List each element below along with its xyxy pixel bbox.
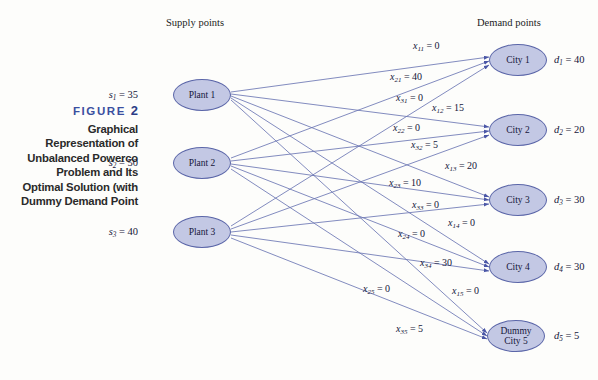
edge-value-x32: 5 [433,139,438,150]
demand-value-2: d2 = 20 [554,124,585,135]
demand-amount-2: 20 [574,124,585,135]
demand-amount-3: 30 [574,194,585,205]
supply-sub-2: 2 [113,162,117,170]
edge-label-x32: x32 = 5 [411,139,438,150]
edge-sub-x25: 25 [367,288,374,296]
edge-value-x25: 0 [385,283,390,294]
edge-sub-x35: 35 [400,328,407,336]
edge-eq-x11: = [424,40,435,51]
edge-sub-x33: 33 [416,204,423,212]
edge-eq-x33: = [423,199,434,210]
edge-sub-x31: 31 [400,97,407,105]
edge-eq-x25: = [374,283,385,294]
edge-eq-x14: = [459,217,470,228]
edge-sub-x34: 34 [424,262,431,270]
dummy-city-line-2: City 5 [504,336,528,347]
demand-value-3: d3 = 30 [554,194,585,205]
edge-value-x33: 0 [434,199,439,210]
edge-sub-x11: 11 [417,45,423,53]
supply-value-2: s2 = 50 [109,157,138,168]
edge-eq-x13: = [456,160,467,171]
node-city-1[interactable]: City 1 [489,44,547,76]
edge-label-x31: x31 = 0 [396,92,423,103]
edge-label-x14: x14 = 0 [448,217,475,228]
edge-label-x34: x34 = 30 [420,257,452,268]
edge-label-x35: x35 = 5 [396,323,423,334]
edge-value-x22: 0 [415,122,420,133]
edge-value-x14: 0 [470,217,475,228]
edge-eq-x32: = [422,139,433,150]
edge-value-x35: 5 [418,323,423,334]
edge-value-x13: 20 [467,160,477,171]
supply-amount-1: 35 [128,89,139,100]
supply-value-1: s1 = 35 [109,89,138,100]
node-city-3[interactable]: City 3 [489,184,547,216]
edge-sub-x23: 23 [393,182,400,190]
edge-value-x31: 0 [418,92,423,103]
edge-sub-x24: 24 [402,233,409,241]
edge-label-x24: x24 = 0 [398,228,425,239]
demand-sub-3: 3 [559,199,563,207]
edge-eq-x31: = [407,92,418,103]
edge-value-x15: 0 [474,285,479,296]
edge-eq-x35: = [407,323,418,334]
edge-value-x21: 40 [412,71,422,82]
edge-p1-c1 [231,57,489,92]
edge-eq-x22: = [404,122,415,133]
demand-amount-1: 40 [574,54,585,65]
demand-value-4: d4 = 30 [554,261,585,272]
demand-sub-1: 1 [559,59,563,67]
supply-amount-3: 40 [128,226,139,237]
edge-label-x33: x33 = 0 [412,199,439,210]
edge-sub-x14: 14 [452,222,459,230]
demand-value-5: d5 = 5 [554,330,579,341]
edge-sub-x22: 22 [397,127,404,135]
demand-sub-4: 4 [559,266,563,274]
edge-sub-x15: 15 [456,290,463,298]
edge-value-x11: 0 [435,40,440,51]
edge-label-x21: x21 = 40 [390,71,422,82]
supply-sub-3: 3 [113,231,117,239]
edge-eq-x34: = [431,257,442,268]
edge-label-x12: x12 = 15 [432,102,464,113]
edge-eq-x15: = [463,285,474,296]
edge-label-x11: x11 = 0 [413,40,440,51]
demand-sub-5: 5 [559,335,563,343]
edge-label-x22: x22 = 0 [393,122,420,133]
edge-sub-x13: 13 [449,165,456,173]
edge-value-x12: 15 [454,102,464,113]
node-city-2[interactable]: City 2 [489,114,547,146]
supply-amount-2: 50 [128,157,139,168]
edge-eq-x21: = [401,71,412,82]
node-plant-1[interactable]: Plant 1 [173,79,231,111]
node-plant-2[interactable]: Plant 2 [173,147,231,179]
edge-label-x23: x23 = 10 [389,177,421,188]
edge-eq-x23: = [400,177,411,188]
demand-amount-4: 30 [574,261,585,272]
dummy-city-line-1: Dummy [500,326,531,337]
edge-sub-x32: 32 [415,144,422,152]
edge-label-x15: x15 = 0 [452,285,479,296]
edge-sub-x21: 21 [394,76,401,84]
edge-value-x23: 10 [411,177,421,188]
figure-canvas: FIGURE 2 Graphical Representation of Unb… [0,0,598,380]
edge-eq-x24: = [409,228,420,239]
node-city-4[interactable]: City 4 [489,251,547,283]
supply-sub-1: 1 [113,94,117,102]
demand-value-1: d1 = 40 [554,54,585,65]
edge-p3-c1 [231,65,489,226]
edge-label-x25: x25 = 0 [363,283,390,294]
node-plant-3[interactable]: Plant 3 [173,216,231,248]
edge-value-x24: 0 [420,228,425,239]
supply-value-3: s3 = 40 [109,226,138,237]
demand-sub-2: 2 [559,129,563,137]
edge-eq-x12: = [443,102,454,113]
edge-value-x34: 30 [442,257,452,268]
demand-amount-5: 5 [574,330,579,341]
edge-label-x13: x13 = 20 [445,160,477,171]
node-dummy-city-5[interactable]: Dummy City 5 [487,320,545,352]
edge-sub-x12: 12 [436,107,443,115]
